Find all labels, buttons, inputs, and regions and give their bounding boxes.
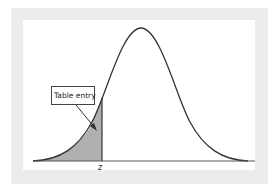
z-tick-label: z — [98, 163, 102, 172]
table-entry-callout: Table entry — [51, 86, 95, 105]
normal-curve-plot — [0, 0, 275, 192]
